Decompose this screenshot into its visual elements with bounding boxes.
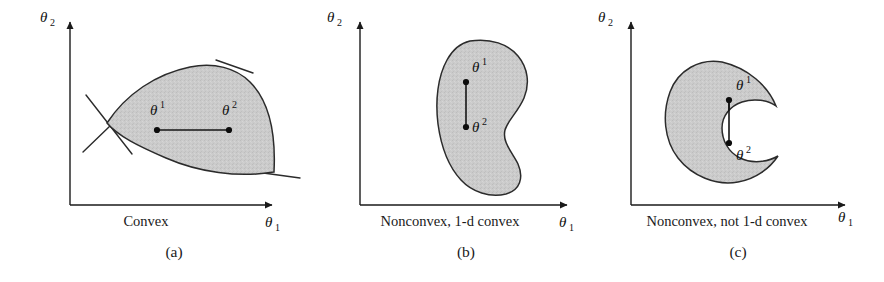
panel-c-y-axis-label: θ	[598, 9, 606, 25]
panel-b-point-theta1	[463, 79, 469, 85]
panel-c-theta1-superscript: 1	[746, 74, 751, 85]
panel-a-theta1-label: θ	[150, 102, 158, 118]
panel-c-point-theta1	[726, 97, 732, 103]
panel-c-theta2-label: θ	[736, 147, 744, 163]
panel-a-theta1-superscript: 1	[160, 99, 165, 110]
panel-a-theta2-label: θ	[222, 102, 230, 118]
panel-c-x-axis-label: θ	[838, 209, 846, 225]
panel-b-theta2-superscript: 2	[482, 116, 487, 127]
panel-b-theta1-superscript: 1	[482, 56, 487, 67]
panel-b-caption: Nonconvex, 1-d convex	[381, 213, 521, 229]
panel-c-theta2-superscript: 2	[746, 144, 751, 155]
panel-b-theta1-label: θ	[472, 59, 480, 75]
panel-a-y-axis-label: θ	[40, 9, 48, 25]
panel-c-y-axis-sublabel: 2	[608, 17, 613, 28]
panel-b-y-axis-sublabel: 2	[337, 17, 342, 28]
panel-a-theta2-superscript: 2	[232, 99, 237, 110]
panel-a-x-axis-sublabel: 1	[275, 222, 280, 233]
panel-a-point-theta1	[154, 127, 160, 133]
panel-b-letter: (b)	[457, 243, 475, 261]
convexity-illustration-figure: θ 2 θ 1 θ 1 θ 2 Convex (a) θ 2 θ 1	[0, 0, 884, 282]
panel-c-letter: (c)	[729, 243, 746, 261]
panel-b-point-theta2	[463, 124, 469, 130]
panel-a-point-theta2	[226, 127, 232, 133]
panel-c-x-axis-sublabel: 1	[848, 217, 853, 228]
panel-a-letter: (a)	[165, 243, 182, 261]
panel-b-x-axis-sublabel: 1	[569, 222, 574, 233]
panel-b-theta2-label: θ	[472, 119, 480, 135]
panel-a-caption: Convex	[123, 213, 169, 229]
panel-c-point-theta2	[726, 140, 732, 146]
panel-b-x-axis-label: θ	[559, 214, 567, 230]
panel-a-y-axis-sublabel: 2	[50, 17, 55, 28]
panel-c-caption: Nonconvex, not 1-d convex	[646, 213, 808, 229]
panel-c-theta1-label: θ	[736, 77, 744, 93]
panel-a-x-axis-label: θ	[265, 214, 273, 230]
panel-b-y-axis-label: θ	[327, 9, 335, 25]
